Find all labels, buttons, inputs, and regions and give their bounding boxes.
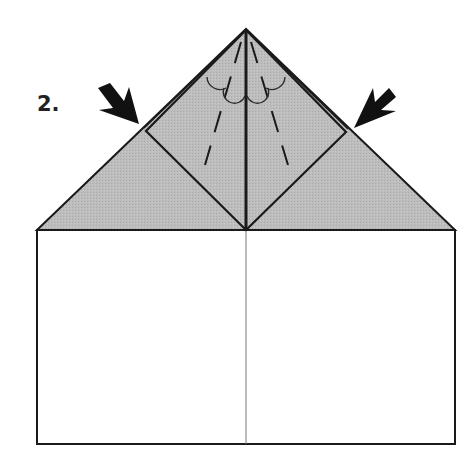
origami-diagram xyxy=(0,0,476,470)
right-push-arrow-icon xyxy=(354,88,396,128)
left-push-arrow-icon xyxy=(98,83,139,124)
